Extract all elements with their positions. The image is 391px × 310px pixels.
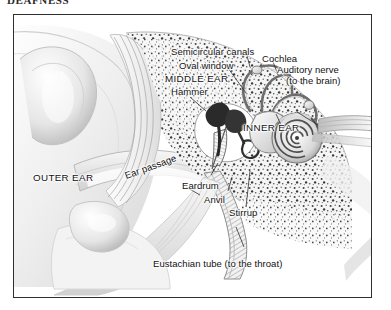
label-outer-ear: OUTER EAR [33,173,93,183]
label-oval-window: Oval window [179,61,233,71]
page-heading: DEAFNESS [7,0,69,6]
label-anvil: Anvil [204,195,225,205]
label-semicircular-canals: Semicircular canals [171,47,254,57]
label-cochlea: Cochlea [262,54,297,64]
figure-frame: Semicircular canals Cochlea Oval window … [13,14,372,298]
label-inner-ear: INNER EAR [243,123,300,133]
label-eustachian-tube: Eustachian tube (to the throat) [153,259,282,269]
label-to-the-brain: (to the brain) [286,76,341,86]
label-middle-ear: MIDDLE EAR [165,74,228,84]
label-auditory-nerve: Auditory nerve [277,65,339,75]
label-stirrup: Stirrup [229,208,257,218]
label-eardrum: Eardrum [182,181,219,191]
label-hammer: Hammer [171,87,208,97]
ear-anatomy-illustration [14,15,371,297]
